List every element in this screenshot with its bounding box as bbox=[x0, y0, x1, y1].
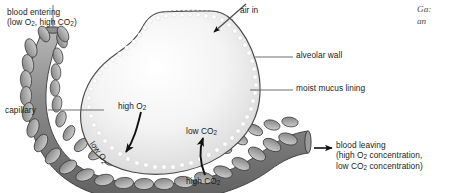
label-blood-entering-line2-pre: (low O bbox=[7, 17, 31, 27]
label-blood-entering-line1: blood entering bbox=[7, 7, 60, 17]
label-high-o2-text: high O bbox=[118, 101, 143, 111]
alveolus bbox=[81, 10, 261, 174]
caption-fragment-line2: an bbox=[417, 16, 426, 26]
diagram-canvas: blood entering(low O2, high CO2) air in … bbox=[0, 0, 452, 193]
label-air-in: air in bbox=[240, 5, 258, 15]
label-blood-entering-line2-post: ) bbox=[74, 17, 77, 27]
label-blood-entering: blood entering(low O2, high CO2) bbox=[7, 7, 77, 28]
label-blood-leaving-line2-post: concentration, bbox=[367, 150, 422, 160]
label-alveolar-wall: alveolar wall bbox=[296, 50, 342, 60]
alveolar-wall-outline bbox=[81, 11, 261, 174]
label-low-co2-text: low CO bbox=[186, 126, 214, 136]
label-low-co2: low CO2 bbox=[186, 126, 217, 136]
label-low-co2-sub: 2 bbox=[214, 129, 218, 136]
label-high-o2-sub: 2 bbox=[143, 104, 147, 111]
caption-fragment: Ga:an bbox=[417, 4, 452, 27]
label-blood-entering-line2-mid: , high CO bbox=[35, 17, 71, 27]
label-moist-mucus-lining: moist mucus lining bbox=[296, 83, 365, 93]
label-blood-leaving-line3-pre: low CO bbox=[336, 161, 364, 171]
label-capillary: capillary bbox=[5, 105, 36, 115]
label-high-o2: high O2 bbox=[118, 101, 146, 111]
label-blood-leaving-line3-post: concentration) bbox=[367, 161, 423, 171]
label-blood-leaving: blood leaving(high O2 concentration,low … bbox=[336, 140, 423, 171]
label-blood-leaving-line1: blood leaving bbox=[336, 140, 386, 150]
caption-fragment-line1: Ga: bbox=[417, 4, 431, 14]
label-blood-leaving-line2-pre: (high O bbox=[336, 150, 364, 160]
capillary-exit-cut-end bbox=[305, 131, 311, 153]
label-high-co2-text: high CO bbox=[186, 176, 217, 186]
label-high-co2-sub: 2 bbox=[217, 179, 221, 186]
label-high-co2: high CO2 bbox=[186, 176, 220, 186]
